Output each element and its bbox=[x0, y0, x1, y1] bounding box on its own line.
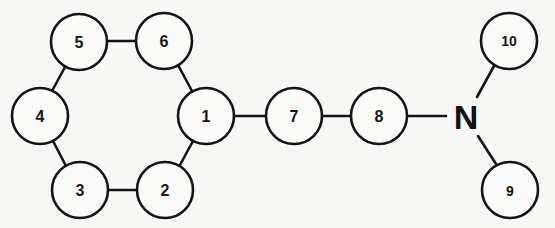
node-label: 6 bbox=[160, 33, 169, 50]
node-6: 6 bbox=[136, 13, 192, 69]
nitrogen-atom-label: N bbox=[454, 98, 479, 136]
node-label: 8 bbox=[375, 108, 384, 125]
node-3: 3 bbox=[52, 162, 108, 218]
node-9: 9 bbox=[482, 162, 538, 218]
node-label: 2 bbox=[161, 182, 170, 199]
node-7: 7 bbox=[266, 88, 322, 144]
node-label: 3 bbox=[76, 182, 85, 199]
node-label: 10 bbox=[501, 33, 517, 49]
node-4: 4 bbox=[12, 88, 68, 144]
node-label: 4 bbox=[36, 108, 45, 125]
node-label: 9 bbox=[506, 183, 514, 199]
node-5: 5 bbox=[51, 14, 107, 70]
node-label: 1 bbox=[202, 108, 211, 125]
node-8: 8 bbox=[351, 88, 407, 144]
node-1: 1 bbox=[178, 88, 234, 144]
node-label: 5 bbox=[75, 34, 84, 51]
node-2: 2 bbox=[137, 162, 193, 218]
molecule-diagram: 1 2 3 4 5 6 7 8 9 10 N bbox=[0, 0, 555, 228]
node-label: 7 bbox=[290, 108, 299, 125]
node-10: 10 bbox=[481, 13, 537, 69]
